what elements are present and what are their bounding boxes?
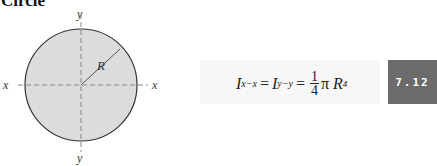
- circle-diagram: x x y y R: [0, 0, 200, 166]
- exponent: 4: [343, 79, 348, 89]
- y-bottom-label: y: [76, 151, 83, 165]
- equals-1: =: [260, 75, 269, 93]
- x-right-label: x: [151, 78, 158, 92]
- moment-of-inertia-formula: Ix−x = Iy−y = 1 4 π R4: [236, 70, 347, 97]
- lhs2-sub: y−y: [277, 78, 293, 89]
- equals-2: =: [296, 75, 305, 93]
- formula-box: Ix−x = Iy−y = 1 4 π R4: [200, 60, 380, 104]
- y-top-label: y: [76, 7, 83, 21]
- lhs1-sub: x−x: [241, 78, 257, 89]
- x-left-label: x: [2, 78, 9, 92]
- equation-number-badge: 7.12: [388, 60, 437, 104]
- radius-label: R: [96, 58, 105, 73]
- fraction: 1 4: [310, 70, 319, 97]
- radius-var: R: [333, 75, 343, 93]
- fraction-denominator: 4: [311, 84, 318, 97]
- fraction-numerator: 1: [310, 70, 319, 84]
- pi-symbol: π: [321, 75, 329, 93]
